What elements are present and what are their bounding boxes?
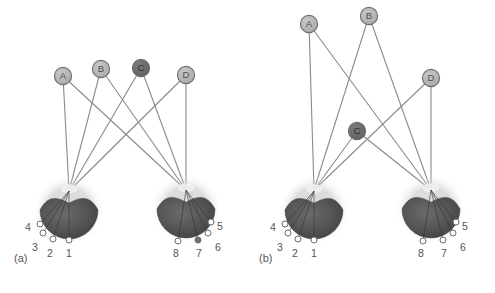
marker-point-b-5	[453, 219, 459, 225]
node-b-D[interactable]: D	[422, 69, 439, 86]
marker-point-b-1	[311, 237, 317, 243]
marker-label-b-7: 7	[441, 247, 447, 259]
marker-label-a-5: 5	[217, 220, 223, 232]
node-b-B[interactable]: B	[360, 7, 377, 24]
marker-label-b-5: 5	[462, 220, 468, 232]
marker-point-b-6	[450, 230, 456, 236]
panel-caption-a: (a)	[14, 252, 27, 264]
node-a-A[interactable]: A	[54, 67, 71, 84]
marker-point-a-8	[175, 238, 181, 244]
marker-label-a-4: 4	[25, 221, 31, 233]
node-label-D: D	[183, 69, 190, 80]
node-b-C[interactable]: C	[348, 122, 365, 139]
marker-label-a-1: 1	[66, 247, 72, 259]
marker-point-b-2	[295, 236, 301, 242]
node-a-D[interactable]: D	[177, 66, 194, 83]
marker-point-a-7	[195, 237, 201, 243]
marker-point-a-6	[205, 230, 211, 236]
marker-label-b-4: 4	[270, 221, 276, 233]
marker-label-b-6: 6	[460, 241, 466, 253]
figure-container: 12345678ABCD(a)12345678ABCD(b)	[0, 0, 495, 293]
marker-label-a-6: 6	[215, 241, 221, 253]
marker-label-a-7: 7	[196, 247, 202, 259]
marker-point-a-3	[40, 230, 46, 236]
marker-point-a-4	[37, 221, 43, 227]
node-label-C: C	[354, 125, 361, 136]
panel-caption-b: (b)	[259, 252, 272, 264]
marker-label-b-2: 2	[292, 247, 298, 259]
marker-label-b-1: 1	[311, 247, 317, 259]
marker-label-a-3: 3	[32, 241, 38, 253]
node-label-A: A	[60, 70, 67, 81]
marker-point-b-7	[440, 237, 446, 243]
marker-point-b-3	[285, 230, 291, 236]
node-label-C: C	[138, 62, 145, 73]
figure-svg: 12345678ABCD(a)12345678ABCD(b)	[0, 0, 495, 293]
marker-label-a-2: 2	[47, 247, 53, 259]
marker-point-a-1	[66, 237, 72, 243]
marker-point-a-5	[208, 219, 214, 225]
marker-point-a-2	[50, 236, 56, 242]
node-b-A[interactable]: A	[300, 15, 317, 32]
marker-label-b-8: 8	[418, 247, 424, 259]
node-label-A: A	[306, 18, 313, 29]
marker-point-b-4	[282, 221, 288, 227]
node-label-D: D	[428, 72, 435, 83]
marker-label-a-8: 8	[173, 247, 179, 259]
node-label-B: B	[98, 63, 104, 74]
marker-point-b-8	[420, 238, 426, 244]
node-a-B[interactable]: B	[92, 60, 109, 77]
node-label-B: B	[366, 10, 372, 21]
marker-label-b-3: 3	[277, 241, 283, 253]
node-a-C[interactable]: C	[132, 59, 149, 76]
